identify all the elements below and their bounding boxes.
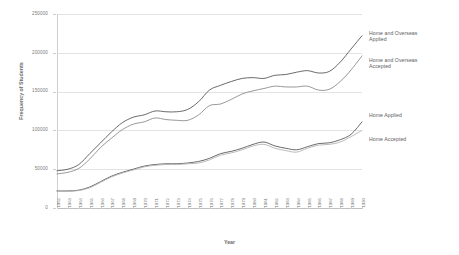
x-tick-label: 1986 — [318, 196, 322, 222]
x-tick-label: 1965 — [90, 196, 94, 222]
x-tick-label: 1989 — [351, 196, 355, 222]
x-tick-mark — [166, 207, 167, 209]
series-line — [57, 130, 362, 191]
x-tick-mark — [242, 207, 243, 209]
x-tick-label: 1966 — [101, 196, 105, 222]
x-tick-mark — [68, 207, 69, 209]
x-tick-label: 1987 — [329, 196, 333, 222]
x-tick-label: 1971 — [155, 196, 159, 222]
x-tick-label: 1981 — [264, 196, 268, 222]
series-line — [57, 36, 362, 171]
x-tick-label: 1977 — [220, 196, 224, 222]
x-tick-mark — [286, 207, 287, 209]
series-label-2: Home and Overseas Accepted — [369, 57, 417, 70]
x-tick-label: 1985 — [308, 196, 312, 222]
x-tick-label: 1964 — [79, 196, 83, 222]
series-label-1: Home and Overseas Applied — [369, 30, 417, 43]
x-tick-label: 1974 — [188, 196, 192, 222]
x-tick-mark — [220, 207, 221, 209]
x-tick-label: 1973 — [177, 196, 181, 222]
x-tick-label: 1979 — [242, 196, 246, 222]
x-tick-mark — [111, 207, 112, 209]
x-tick-mark — [362, 207, 363, 209]
x-tick-label: 1990 — [362, 196, 366, 222]
x-tick-mark — [253, 207, 254, 209]
x-tick-label: 1980 — [253, 196, 257, 222]
x-tick-label: 1988 — [340, 196, 344, 222]
x-tick-mark — [79, 207, 80, 209]
x-tick-mark — [133, 207, 134, 209]
x-axis-label: Year — [0, 239, 459, 245]
x-tick-mark — [275, 207, 276, 209]
x-tick-label: 1976 — [210, 196, 214, 222]
x-tick-label: 1967 — [111, 196, 115, 222]
x-tick-label: 1968 — [122, 196, 126, 222]
x-tick-mark — [155, 207, 156, 209]
x-tick-mark — [90, 207, 91, 209]
x-tick-mark — [210, 207, 211, 209]
series-label-4: Home Accepted — [369, 136, 406, 142]
x-tick-mark — [177, 207, 178, 209]
x-tick-label: 1970 — [144, 196, 148, 222]
x-tick-label: 1984 — [297, 196, 301, 222]
x-tick-label: 1963 — [68, 196, 72, 222]
x-tick-label: 1983 — [286, 196, 290, 222]
line-chart: Frequency of Students 050000100000150000… — [0, 0, 459, 255]
x-tick-mark — [297, 207, 298, 209]
x-tick-mark — [57, 207, 58, 209]
x-tick-mark — [199, 207, 200, 209]
x-tick-mark — [329, 207, 330, 209]
x-tick-label: 1969 — [133, 196, 137, 222]
x-tick-mark — [144, 207, 145, 209]
x-tick-mark — [318, 207, 319, 209]
series-line — [57, 56, 362, 174]
x-tick-mark — [351, 207, 352, 209]
series-label-3: Home Applied — [369, 112, 402, 118]
x-tick-label: 1972 — [166, 196, 170, 222]
x-tick-mark — [101, 207, 102, 209]
x-tick-mark — [231, 207, 232, 209]
x-tick-label: 1975 — [199, 196, 203, 222]
x-tick-mark — [308, 207, 309, 209]
x-tick-label: 1982 — [275, 196, 279, 222]
x-axis-ticks: 1962196319641965196619671968196919701971… — [57, 209, 363, 239]
x-tick-label: 1978 — [231, 196, 235, 222]
x-tick-mark — [340, 207, 341, 209]
x-tick-mark — [188, 207, 189, 209]
x-tick-mark — [264, 207, 265, 209]
x-tick-mark — [122, 207, 123, 209]
x-tick-label: 1962 — [57, 196, 61, 222]
series-line — [57, 122, 362, 191]
